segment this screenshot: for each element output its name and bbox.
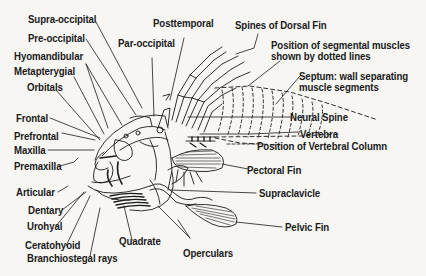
label-pre-occipital: Pre-occipital bbox=[28, 33, 85, 44]
label-supra-occipital: Supra-occipital bbox=[28, 14, 96, 25]
label-metapterygial: Metapterygial bbox=[14, 66, 75, 77]
label-posttemporal: Posttemporal bbox=[153, 18, 214, 29]
label-prefrontal: Prefrontal bbox=[14, 131, 59, 142]
label-maxilla: Maxilla bbox=[14, 145, 46, 156]
dorsal-fin-spines bbox=[158, 47, 250, 132]
leader-lines bbox=[48, 22, 300, 256]
label-quadrate: Quadrate bbox=[119, 236, 161, 247]
branchiostegal-rays bbox=[110, 193, 150, 208]
vertebral-column bbox=[186, 137, 215, 147]
label-spines-of-dorsal-fin: Spines of Dorsal Fin bbox=[235, 20, 327, 31]
label-neural-spine: Neural Spine bbox=[290, 112, 348, 123]
label-branchiostegal-rays: Branchiostegal rays bbox=[27, 253, 118, 264]
label-ceratohyoid: Ceratohyoid bbox=[25, 240, 80, 251]
label-frontal: Frontal bbox=[16, 113, 48, 124]
label-hyomandibular: Hyomandibular bbox=[14, 51, 83, 62]
label-articular: Articular bbox=[16, 187, 55, 198]
pelvic-fin bbox=[186, 204, 237, 227]
jaws bbox=[88, 152, 150, 200]
label-pelvic-fin: Pelvic Fin bbox=[285, 222, 329, 233]
label-operculars: Operculars bbox=[183, 248, 233, 259]
label-orbitals: Orbitals bbox=[27, 82, 63, 93]
label-septum: Septum: wall separating muscle segments bbox=[299, 71, 408, 93]
label-vertebra: Vertebra bbox=[300, 129, 338, 140]
label-urohyal: Urohyal bbox=[27, 221, 62, 232]
label-supraclavicle: Supraclavicle bbox=[259, 188, 320, 199]
label-par-occipital: Par-occipital bbox=[118, 38, 175, 49]
opercular-region bbox=[130, 165, 188, 210]
skull bbox=[95, 115, 172, 190]
pectoral-fin bbox=[172, 150, 224, 186]
label-pectoral-fin: Pectoral Fin bbox=[247, 165, 301, 176]
label-vertebral-column: Position of Vertebral Column bbox=[257, 141, 387, 152]
label-segmental-muscles: Position of segmental muscles shown by d… bbox=[271, 40, 410, 62]
label-premaxilla: Premaxilla bbox=[14, 161, 61, 172]
label-dentary: Dentary bbox=[28, 205, 63, 216]
